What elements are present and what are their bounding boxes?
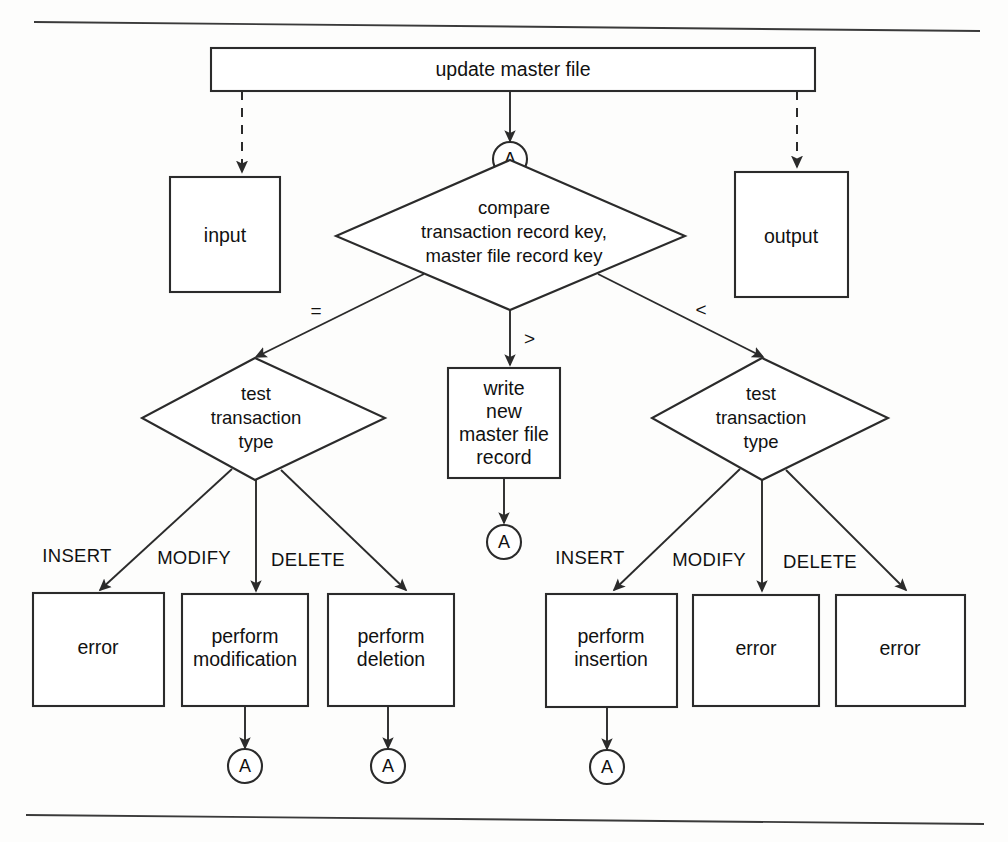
edge-label-equal: = [310, 300, 321, 321]
edge-label-less: < [695, 299, 706, 320]
bottom-horizontal-rule [26, 815, 984, 824]
node-compare-line2: transaction record key, [421, 221, 607, 242]
edge-label-greater: > [524, 328, 535, 349]
node-perform-modification-line2: modification [193, 648, 297, 670]
node-test-left-line1: test [241, 383, 271, 404]
node-output-label: output [764, 225, 819, 247]
connector-a-insertion-label: A [601, 757, 613, 777]
flowchart-canvas: update master file input output A compar… [0, 0, 1008, 842]
node-perform-insertion-line1: perform [577, 625, 644, 647]
node-perform-deletion-line2: deletion [357, 648, 425, 670]
node-write-line1: write [482, 377, 524, 399]
node-perform-deletion-line1: perform [357, 625, 424, 647]
top-horizontal-rule [34, 22, 980, 31]
connector-a-deletion-label: A [382, 756, 394, 776]
node-input-label: input [204, 224, 247, 246]
node-error-left-label: error [77, 636, 119, 658]
node-test-left-line2: transaction [211, 407, 302, 428]
connector-a-modification-label: A [239, 756, 251, 776]
edge-test-left-to-error [100, 469, 232, 590]
node-test-left-line3: type [239, 431, 274, 452]
edge-test-right-to-error-delete [786, 470, 906, 590]
node-write-line3: master file [459, 423, 549, 445]
node-perform-insertion-line2: insertion [574, 648, 648, 670]
edge-label-right-delete: DELETE [783, 551, 857, 572]
edge-label-left-insert: INSERT [42, 545, 111, 566]
node-update-master-file-label: update master file [435, 58, 590, 80]
node-error-right-modify-label: error [735, 637, 777, 659]
edge-label-right-modify: MODIFY [672, 549, 746, 570]
node-perform-modification-line1: perform [211, 625, 278, 647]
node-test-right-line2: transaction [716, 407, 807, 428]
edge-compare-to-test-left [256, 274, 424, 357]
edge-label-left-modify: MODIFY [157, 547, 231, 568]
node-test-right-line1: test [746, 383, 776, 404]
edge-label-right-insert: INSERT [555, 547, 624, 568]
flowchart-figure: update master file input output A compar… [0, 0, 1008, 842]
node-write-line4: record [476, 446, 531, 468]
node-compare-line1: compare [478, 197, 550, 218]
edge-test-left-to-deletion [281, 470, 406, 590]
node-error-right-delete-label: error [879, 637, 921, 659]
node-test-right-line3: type [744, 431, 779, 452]
edge-label-left-delete: DELETE [271, 549, 345, 570]
edge-test-right-to-insertion [614, 469, 740, 590]
node-write-line2: new [486, 400, 523, 422]
connector-a-write-label: A [498, 532, 510, 552]
node-compare-line3: master file record key [426, 245, 604, 266]
